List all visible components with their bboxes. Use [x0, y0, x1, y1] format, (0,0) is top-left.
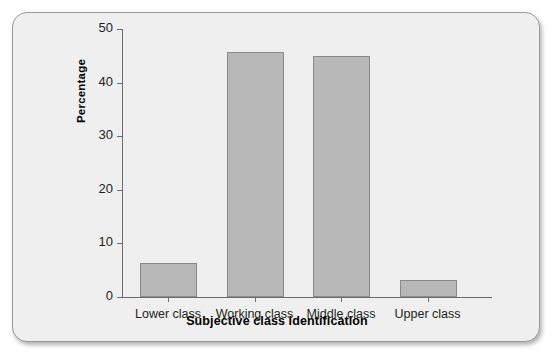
y-axis-title: Percentage	[75, 59, 87, 123]
y-tick-label-30: 30	[99, 128, 113, 142]
x-tick-2	[341, 297, 342, 302]
figure-root: Percentage 0 10 20 30 40 50	[0, 0, 552, 356]
bar-middle-class	[313, 56, 370, 297]
x-tick-0	[168, 297, 169, 302]
y-tick-0: 0	[117, 297, 122, 298]
y-tick-label-10: 10	[99, 235, 113, 249]
chart-card: Percentage 0 10 20 30 40 50	[12, 12, 540, 342]
bar-lower-class	[140, 263, 197, 297]
y-tick-label-40: 40	[99, 75, 113, 89]
y-tick-label-20: 20	[99, 182, 113, 196]
y-tick-40: 40	[117, 83, 122, 84]
x-axis-title: Subjective class identification	[13, 314, 541, 328]
x-axis-line	[122, 297, 492, 298]
y-tick-30: 30	[117, 136, 122, 137]
bar-upper-class	[400, 280, 457, 297]
y-axis-line	[122, 29, 123, 297]
bar-working-class	[227, 52, 284, 297]
x-tick-3	[428, 297, 429, 302]
y-tick-20: 20	[117, 190, 122, 191]
x-tick-1	[255, 297, 256, 302]
plot-area: 0 10 20 30 40 50	[122, 29, 492, 297]
y-tick-label-0: 0	[106, 289, 113, 303]
y-tick-label-50: 50	[99, 21, 113, 35]
y-tick-50: 50	[117, 29, 122, 30]
y-tick-10: 10	[117, 243, 122, 244]
